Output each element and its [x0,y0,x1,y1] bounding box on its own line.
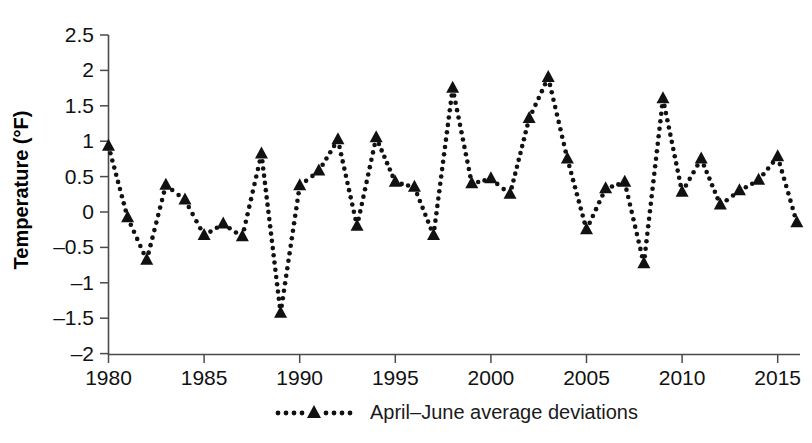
series-line-dot [284,273,289,278]
series-line-dot [610,184,615,189]
series-line-dot [348,195,353,200]
series-line-dot [516,158,521,163]
data-point-marker [637,256,650,268]
series-line-dot [436,196,441,201]
series-line-dot [377,142,382,147]
series-line-dot [782,176,787,181]
series-line-dot [342,166,347,171]
data-point-marker [484,171,497,183]
series-line-dot [121,201,126,206]
series-line-dot [418,199,423,204]
x-tick-label: 1985 [181,366,228,389]
data-point-marker [695,151,708,163]
series-line-dot [254,174,259,179]
series-line-dot [118,187,123,192]
series-line-dot [247,204,252,209]
series-line-dot [633,224,638,229]
series-line-dot [138,244,143,249]
series-line-dot [591,214,596,219]
series-line-dot [549,90,554,95]
series-line-dot [267,217,272,222]
y-tick-label: 0.5 [65,165,94,188]
series-line-dot [148,243,153,248]
series-line-dot [292,221,297,226]
series-line-dot [262,173,267,178]
series-line-dot [150,235,155,240]
series-line-dot [638,247,643,252]
series-line-dot [513,171,518,176]
series-line-dot [562,142,567,147]
series-line-dot [444,137,449,142]
series-line-dot [448,101,453,106]
legend-line-dot [292,411,297,416]
series-line-dot [154,220,159,225]
series-line-dot [786,191,791,196]
y-tick-label: 0 [82,200,94,223]
series-line-dot [462,145,467,150]
series-line-dot [442,152,447,157]
series-line-dot [332,144,337,149]
series-line-dot [654,156,659,161]
series-line-dot [443,145,448,150]
series-line-dot [778,162,783,167]
series-line-dot [649,194,654,199]
series-line-dot [282,288,287,293]
series-markers [102,70,803,318]
series-line-dot [152,228,157,233]
x-axis-ticks: 19801985199019952000200520102015 [85,355,801,390]
y-axis-ticks: –2–1.5–1–0.500.511.522.5 [53,23,108,365]
legend-line-dot [284,411,289,416]
data-point-marker [159,178,172,190]
series-line-dot [684,183,689,188]
series-line-dot [426,219,431,224]
series-line-dot [511,178,516,183]
series-line-dot [520,144,525,149]
series-line-dot [672,154,677,159]
series-line-dot [406,183,411,188]
series-line-dot [744,185,749,190]
series-line-dot [594,207,599,212]
data-point-marker [370,130,383,142]
series-line-dot [328,150,333,155]
series-line-dot [135,237,140,242]
series-line-dot [467,167,472,172]
series-line-dot [112,165,117,170]
data-point-marker [542,70,555,82]
series-line-dot [645,231,650,236]
series-line-dot [648,209,653,214]
temperature-deviation-chart: Temperature (°F) –2–1.5–1–0.500.511.522.… [0,0,812,443]
series-line-dot [304,179,309,184]
data-point-marker [446,81,459,93]
series-line-dot [194,219,199,224]
series-line-dot [287,251,292,256]
series-line-dot [523,130,528,135]
series-line-dot [366,172,371,177]
series-line-dot [543,82,548,87]
x-tick-label: 2015 [754,366,801,389]
y-axis-title-text: Temperature (°F) [10,111,32,270]
series-line-dot [649,201,654,206]
series-line-dot [369,157,374,162]
series-line-dot [423,212,428,217]
series-line-dot [158,205,163,210]
series-line-dot [263,181,268,186]
series-line-dot [447,115,452,120]
series-line-dot [551,97,556,102]
series-line-dot [439,174,444,179]
series-line-dot [553,105,558,110]
series-line-dot [340,159,345,164]
series-line-dot [272,260,277,265]
series-line-dot [324,156,329,161]
legend-entry-label: April–June average deviations [370,401,638,423]
series-line-dot [275,282,280,287]
series-line-dot [269,231,274,236]
series-line-dot [176,193,181,198]
series-line-dot [291,228,296,233]
series-line-dot [261,166,266,171]
series-line-dot [459,130,464,135]
series-line-dot [567,164,572,169]
series-line-dot [372,143,377,148]
series-line-dot [363,187,368,192]
x-tick-label: 2010 [659,366,706,389]
series-line-dot [587,221,592,226]
